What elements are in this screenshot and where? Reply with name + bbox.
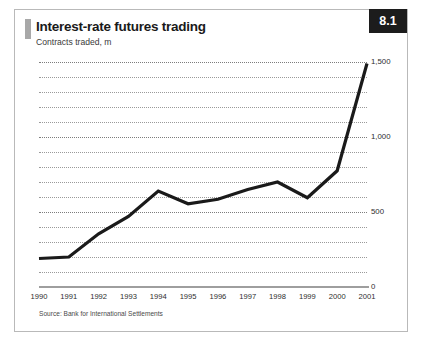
y-axis-tick-label: 1,500 <box>371 57 391 66</box>
x-axis-tick-label: 1994 <box>150 292 167 301</box>
x-axis-tick-label: 2000 <box>329 292 346 301</box>
x-axis-tick-label: 1992 <box>90 292 107 301</box>
x-axis-tick-label: 1997 <box>239 292 256 301</box>
y-axis-tick-label: 0 <box>371 282 375 291</box>
title-accent-bar <box>25 19 31 39</box>
figure-number-badge: 8.1 <box>369 9 407 33</box>
y-axis-tick-label: 1,000 <box>371 132 391 141</box>
figure-header: Interest-rate futures trading Contracts … <box>15 10 407 56</box>
x-axis-tick-label: 1999 <box>299 292 316 301</box>
x-axis-baseline <box>39 286 369 288</box>
x-axis-tick-label: 1996 <box>209 292 226 301</box>
line-series <box>39 62 367 287</box>
plot-area <box>39 62 367 287</box>
figure-panel: Interest-rate futures trading Contracts … <box>14 9 408 332</box>
x-axis-tick-label: 1995 <box>180 292 197 301</box>
source-note: Source: Bank for International Settlemen… <box>39 310 163 317</box>
series-polyline <box>39 64 367 259</box>
x-axis-tick-label: 2001 <box>359 292 376 301</box>
chart-subtitle: Contracts traded, m <box>36 37 111 47</box>
x-axis-tick-label: 1990 <box>31 292 48 301</box>
x-axis-tick-label: 1993 <box>120 292 137 301</box>
x-axis-tick-label: 1998 <box>269 292 286 301</box>
y-axis-tick-label: 500 <box>371 207 384 216</box>
page-title: Interest-rate futures trading <box>36 19 206 34</box>
x-axis-tick-label: 1991 <box>60 292 77 301</box>
